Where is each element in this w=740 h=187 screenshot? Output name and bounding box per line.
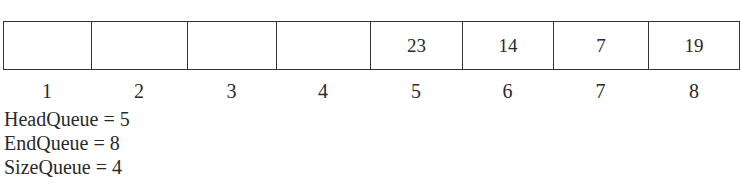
queue-cell-5: 23 [370, 21, 462, 70]
end-queue-label: EndQueue = 8 [4, 132, 120, 155]
index-label: 5 [370, 80, 462, 103]
queue-cell-4 [276, 21, 370, 70]
size-queue-label: SizeQueue = 4 [4, 156, 122, 179]
queue-cell-6: 14 [462, 21, 553, 70]
queue-cell-7: 7 [553, 21, 648, 70]
index-label: 6 [462, 80, 553, 103]
index-label: 4 [276, 80, 370, 103]
queue-cell-3 [187, 21, 276, 70]
index-label: 2 [91, 80, 187, 103]
index-label: 3 [187, 80, 276, 103]
index-label: 1 [3, 80, 91, 103]
queue-cell-1 [3, 21, 91, 70]
queue-cell-2 [91, 21, 187, 70]
index-label: 7 [553, 80, 648, 103]
head-queue-label: HeadQueue = 5 [4, 108, 130, 131]
index-label: 8 [648, 80, 740, 103]
queue-cell-8: 19 [648, 21, 740, 70]
